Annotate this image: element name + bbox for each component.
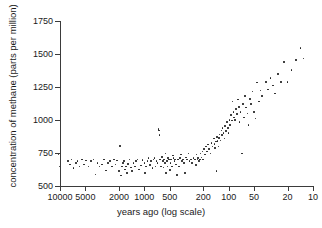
data-point [242, 103, 244, 105]
data-point [144, 162, 146, 164]
data-point [203, 148, 205, 150]
data-point [131, 170, 133, 172]
x-tick-mark [229, 186, 230, 191]
data-point [165, 172, 167, 174]
data-point [229, 119, 231, 121]
data-point [234, 119, 236, 121]
data-point [295, 59, 297, 61]
data-point [207, 144, 209, 146]
y-tick-mark [55, 54, 60, 55]
data-point [216, 170, 218, 172]
data-point [270, 77, 272, 79]
x-tick-mark [144, 186, 145, 191]
x-axis-title: years ago (log scale) [0, 206, 322, 217]
data-point [67, 160, 69, 162]
data-point [161, 156, 163, 158]
data-point [133, 162, 135, 164]
data-point [198, 160, 200, 162]
data-point [107, 162, 109, 164]
y-axis-title: concentration of methane (parts per mill… [7, 18, 18, 188]
y-tick-mark [55, 87, 60, 88]
x-tick-mark [288, 186, 289, 191]
y-tick-label: 1500 [33, 50, 53, 59]
x-tick-label: 5000 [75, 193, 95, 202]
data-point [101, 164, 103, 166]
data-point [208, 148, 210, 150]
data-point [280, 81, 282, 83]
data-point [250, 103, 252, 105]
data-point [233, 111, 235, 113]
data-point [135, 160, 137, 162]
data-point [147, 160, 149, 162]
data-point [105, 170, 107, 172]
data-point [120, 175, 122, 177]
data-point [243, 117, 245, 119]
y-tick-label: 1000 [33, 116, 53, 125]
data-point [214, 143, 216, 145]
data-point [75, 162, 77, 164]
data-point [205, 146, 207, 148]
data-point [265, 81, 267, 83]
x-tick-mark [119, 186, 120, 191]
data-point [119, 145, 121, 147]
data-point [180, 154, 182, 156]
data-point [176, 174, 178, 176]
data-point [214, 147, 216, 149]
x-tick-label: 100 [221, 193, 236, 202]
data-point [162, 160, 164, 162]
x-tick-label: 200 [196, 193, 211, 202]
data-point [109, 160, 111, 162]
y-tick-label: 750 [38, 149, 53, 158]
methane-scatter-chart: 5007501000125015001750 10000500020001000… [0, 0, 322, 228]
x-tick-mark [313, 186, 314, 191]
x-tick-label: 1000 [134, 193, 154, 202]
data-point [283, 61, 285, 63]
data-point [149, 164, 151, 166]
data-point [164, 162, 166, 164]
data-point [272, 85, 274, 87]
data-point [154, 157, 156, 159]
data-point [121, 166, 123, 168]
data-point [230, 114, 232, 116]
data-point [233, 117, 235, 119]
x-tick-mark [254, 186, 255, 191]
x-tick-label: 20 [283, 193, 293, 202]
data-point [150, 160, 152, 162]
data-point [166, 160, 168, 162]
x-tick-label: 500 [162, 193, 177, 202]
data-point [235, 108, 237, 110]
data-point [244, 95, 246, 97]
data-point [118, 170, 120, 172]
data-point [238, 106, 240, 108]
data-point [127, 163, 129, 165]
data-point [174, 160, 176, 162]
data-point [224, 125, 226, 127]
data-point [126, 172, 128, 174]
y-axis-line [60, 21, 61, 187]
data-point [218, 137, 220, 139]
data-point [277, 73, 279, 75]
data-point [253, 111, 255, 113]
data-point [225, 130, 227, 132]
y-tick-mark [55, 120, 60, 121]
x-tick-label: 10 [308, 193, 318, 202]
data-point [178, 166, 180, 168]
y-tick-mark [55, 21, 60, 22]
x-tick-label: 50 [249, 193, 259, 202]
data-point [195, 164, 197, 166]
data-point [226, 121, 228, 123]
data-point [183, 162, 185, 164]
y-tick-label: 1750 [33, 17, 53, 26]
x-tick-label: 10000 [47, 193, 72, 202]
data-point [184, 172, 186, 174]
y-tick-label: 500 [38, 182, 53, 191]
x-tick-mark [60, 186, 61, 191]
data-point [179, 157, 181, 159]
data-point [90, 160, 92, 162]
data-point [249, 98, 251, 100]
data-point [122, 162, 124, 164]
data-point [170, 162, 172, 164]
x-tick-mark [203, 186, 204, 191]
data-point [221, 134, 223, 136]
x-tick-mark [85, 186, 86, 191]
